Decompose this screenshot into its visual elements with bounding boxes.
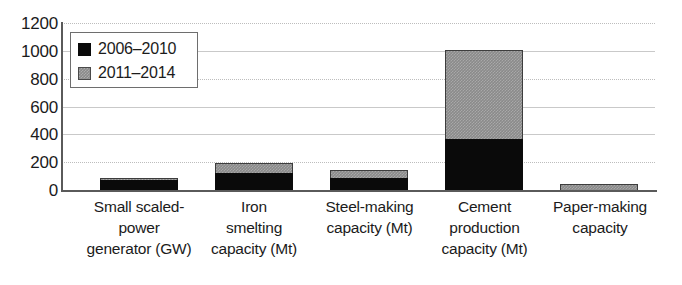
bar-segment-2011-2014[interactable] <box>100 178 178 180</box>
legend: 2006–2010 2011–2014 <box>70 32 198 88</box>
y-axis-tick-label: 1000 <box>4 43 58 60</box>
legend-item-2006-2010[interactable]: 2006–2010 <box>78 37 191 61</box>
y-axis: 1200 1000 800 600 400 200 0 <box>0 0 58 285</box>
bar-segment-2006-2010[interactable] <box>445 139 523 191</box>
bar-segment-2006-2010[interactable] <box>100 180 178 190</box>
y-axis-tick-label: 200 <box>4 154 58 171</box>
y-axis-tick-label: 1200 <box>4 15 58 32</box>
x-axis-label-line: capacity <box>524 217 676 238</box>
x-axis-label-line: capacity (Mt) <box>179 238 329 259</box>
bar-group-steel-making-capacity[interactable] <box>330 170 408 190</box>
bar-group-cement-production-capacity[interactable] <box>445 50 523 191</box>
bar-segment-2011-2014[interactable] <box>330 170 408 178</box>
bar-segment-2006-2010[interactable] <box>215 173 293 190</box>
y-axis-line <box>61 22 63 191</box>
legend-label: 2006–2010 <box>98 41 176 57</box>
bar-segment-2011-2014[interactable] <box>445 50 523 139</box>
y-axis-tick-label: 600 <box>4 99 58 116</box>
legend-item-2011-2014[interactable]: 2011–2014 <box>78 61 191 85</box>
x-axis-category-labels: Small scaled- power generator (GW) Iron … <box>62 196 655 285</box>
y-axis-tick-label: 400 <box>4 126 58 143</box>
legend-swatch-icon <box>78 43 91 56</box>
x-axis-label-line: capacity (Mt) <box>411 238 558 259</box>
y-axis-tick-label: 0 <box>4 182 58 199</box>
legend-swatch-icon <box>78 67 91 80</box>
x-axis-label-line: Paper-making <box>524 196 676 217</box>
bar-chart: 1200 1000 800 600 400 200 0 <box>0 0 682 285</box>
x-axis-label-paper-making-capacity: Paper-making capacity <box>524 196 676 238</box>
y-axis-tick-label: 800 <box>4 71 58 88</box>
bar-segment-2011-2014[interactable] <box>215 163 293 173</box>
x-axis-line <box>61 190 657 192</box>
bar-segment-2006-2010[interactable] <box>330 178 408 191</box>
bar-group-iron-smelting-capacity[interactable] <box>215 163 293 190</box>
legend-label: 2011–2014 <box>98 65 175 81</box>
bar-group-small-scaled-power-generator[interactable] <box>100 178 178 191</box>
